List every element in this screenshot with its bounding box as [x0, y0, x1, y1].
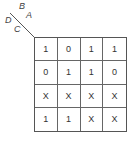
variable-label-d: D [5, 16, 12, 25]
kmap-corner-label: B A D C [0, 0, 40, 40]
variable-label-b: B [19, 2, 25, 11]
kmap-cell: 1 [58, 108, 81, 131]
kmap-cell: X [103, 85, 126, 108]
kmap-cell: 0 [58, 38, 81, 61]
kmap-cell: 1 [81, 61, 104, 84]
kmap-cell: 0 [103, 61, 126, 84]
kmap-cell: 1 [35, 38, 58, 61]
kmap-cell: 1 [58, 61, 81, 84]
kmap-cell: X [81, 85, 104, 108]
kmap-cell: 1 [35, 108, 58, 131]
kmap-cell: 0 [35, 61, 58, 84]
kmap-cell: X [103, 108, 126, 131]
kmap-cell: X [35, 85, 58, 108]
variable-label-c: C [14, 25, 21, 34]
kmap-cell: 1 [81, 38, 104, 61]
kmap-cell: X [81, 108, 104, 131]
variable-label-a: A [26, 11, 32, 20]
kmap-cell: X [58, 85, 81, 108]
kmap-cell: 1 [103, 38, 126, 61]
kmap-grid: 1 0 1 1 0 1 1 0 X X X X 1 1 X X [34, 37, 127, 132]
